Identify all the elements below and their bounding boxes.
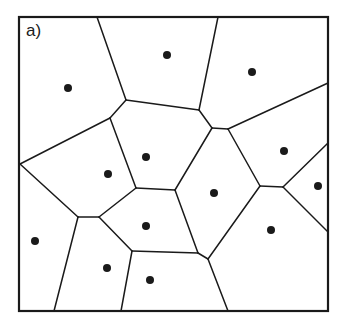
- cell-edge: [198, 253, 208, 259]
- cell-edge: [228, 129, 260, 186]
- site-point: [142, 153, 150, 161]
- cell-edge: [212, 128, 228, 129]
- cell-edge: [99, 217, 132, 251]
- cell-edge: [175, 128, 212, 190]
- site-point: [64, 84, 72, 92]
- cell-edge: [121, 251, 132, 311]
- site-point: [248, 68, 256, 76]
- voronoi-diagram: [0, 0, 345, 323]
- site-point: [103, 264, 111, 272]
- site-point: [104, 170, 112, 178]
- cell-edge: [283, 143, 328, 187]
- cell-edge: [136, 188, 175, 190]
- site-points: [31, 51, 322, 284]
- site-point: [210, 189, 218, 197]
- site-point: [280, 147, 288, 155]
- cell-edge: [110, 118, 136, 188]
- site-point: [267, 226, 275, 234]
- panel-label: a): [26, 21, 41, 41]
- cell-edge: [126, 100, 199, 110]
- cell-edge: [97, 17, 126, 100]
- cell-edge: [99, 188, 136, 217]
- cell-edge: [199, 110, 212, 128]
- cell-edge: [199, 17, 218, 110]
- cell-edges: [20, 17, 328, 311]
- site-point: [314, 182, 322, 190]
- site-point: [142, 222, 150, 230]
- cell-edge: [208, 186, 260, 259]
- cell-edge: [208, 259, 228, 311]
- site-point: [31, 237, 39, 245]
- cell-edge: [110, 100, 126, 118]
- cell-edge: [20, 118, 110, 164]
- cell-edge: [283, 187, 328, 232]
- cell-edge: [228, 83, 328, 129]
- cell-edge: [175, 190, 198, 253]
- site-point: [163, 51, 171, 59]
- cell-edge: [260, 186, 283, 187]
- cell-edge: [20, 164, 78, 217]
- site-point: [146, 276, 154, 284]
- cell-edge: [54, 217, 78, 311]
- cell-edge: [132, 251, 198, 253]
